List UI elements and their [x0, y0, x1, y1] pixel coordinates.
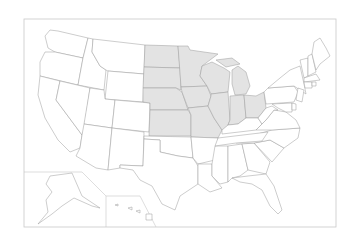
state-de[interactable] [292, 103, 296, 110]
state-ne[interactable] [143, 88, 188, 110]
state-nj[interactable] [296, 88, 304, 102]
state-wy[interactable] [105, 71, 144, 102]
state-me[interactable] [312, 38, 330, 70]
us-map [0, 0, 354, 244]
state-ms[interactable] [212, 146, 228, 184]
state-nd[interactable] [144, 45, 180, 68]
state-ks[interactable] [149, 110, 191, 136]
state-nm[interactable] [108, 128, 144, 170]
state-ct[interactable] [304, 82, 312, 88]
state-sd[interactable] [143, 67, 181, 90]
states [38, 30, 330, 224]
state-pa[interactable] [264, 86, 298, 104]
state-co[interactable] [112, 100, 150, 132]
state-hi[interactable] [115, 204, 152, 220]
hawaii-inset-border [106, 196, 156, 227]
state-ri[interactable] [312, 82, 316, 86]
state-fl[interactable] [232, 174, 282, 214]
